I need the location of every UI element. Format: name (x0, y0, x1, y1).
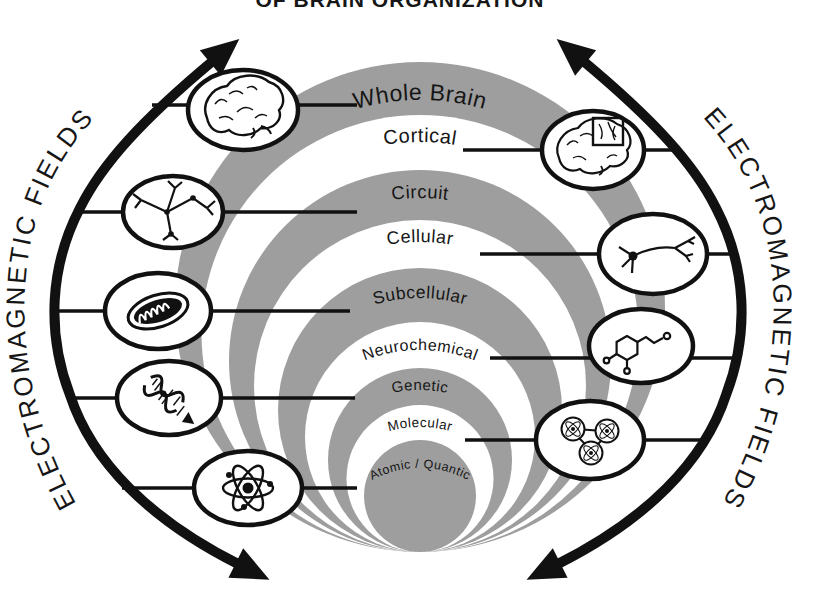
brain-icon (188, 70, 298, 150)
neural-circuit-icon (123, 176, 223, 248)
page-title: OF BRAIN ORGANIZATION (256, 0, 545, 11)
brain-with-cortex-box-icon (542, 111, 644, 189)
level-label-genetic: Genetic (390, 376, 450, 396)
brain-organization-diagram: OF BRAIN ORGANIZATION ELECTROMAGNETIC FI… (0, 0, 820, 608)
electromagnetic-fields-label-right: ELECTROMAGNETIC FIELDS (698, 102, 798, 516)
level-label-circuit: Circuit (390, 181, 450, 204)
band-atomic-quantic (364, 440, 476, 552)
diagram-canvas: OF BRAIN ORGANIZATION ELECTROMAGNETIC FI… (0, 0, 820, 608)
bonded-atoms-icon (536, 401, 644, 479)
level-label-cortical: Cortical (382, 124, 459, 149)
mitochondrion-icon (105, 273, 211, 349)
molecule-structure-icon (589, 309, 693, 383)
atom-icon (194, 451, 302, 525)
dna-icon (117, 361, 221, 435)
level-label-cellular: Cellular (385, 226, 455, 249)
neuron-icon (599, 214, 707, 294)
